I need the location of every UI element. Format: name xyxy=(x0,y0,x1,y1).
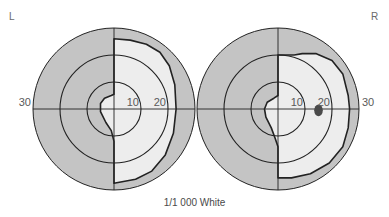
left-eye-field: 102030 xyxy=(19,28,195,190)
left-eye-label: L xyxy=(9,11,15,22)
right-eye-field: 102030 xyxy=(197,28,374,190)
visual-field-diagram: 102030 102030 L R xyxy=(0,0,389,217)
stimulus-caption: 1/1 000 White xyxy=(0,197,389,208)
ring-label-20: 20 xyxy=(318,96,330,108)
ring-label-10: 10 xyxy=(291,96,303,108)
ring-label-30: 30 xyxy=(19,96,31,108)
ring-label-20: 20 xyxy=(154,96,166,108)
right-eye-label: R xyxy=(371,11,378,22)
ring-label-10: 10 xyxy=(127,96,139,108)
ring-label-30: 30 xyxy=(362,96,374,108)
